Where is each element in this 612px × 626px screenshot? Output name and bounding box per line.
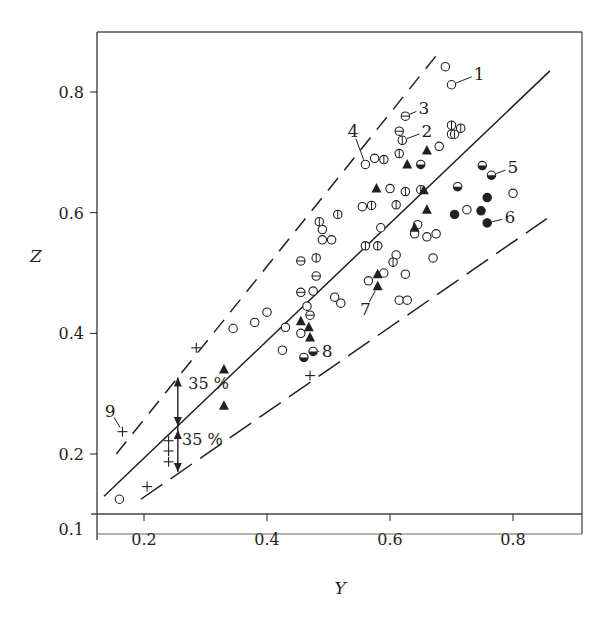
circle — [401, 270, 409, 278]
fit-lines — [104, 56, 550, 499]
y-tick-label: 0.6 — [59, 204, 84, 223]
y-tick-label: 0.1 — [59, 520, 84, 539]
circle-vbar-marker-icon — [447, 121, 455, 129]
band-percent-label: 35 % — [188, 374, 229, 393]
circle-vbar-marker-icon — [401, 187, 409, 195]
triangle-marker-icon — [373, 281, 383, 291]
circle — [477, 207, 485, 215]
y-tick-label: 0.2 — [59, 445, 84, 464]
circle-open-marker-icon — [423, 233, 431, 241]
circle-open-marker-icon — [358, 202, 366, 210]
leader-line — [356, 139, 364, 160]
triangle-marker-icon — [402, 159, 412, 169]
circle — [509, 189, 517, 197]
triangle-marker-icon — [422, 145, 432, 155]
plot-frame — [91, 32, 582, 540]
circle-open-marker-icon — [509, 189, 517, 197]
fit-line-dashed — [116, 56, 436, 454]
circle — [229, 324, 237, 332]
circle-vbar-marker-icon — [389, 258, 397, 266]
circle-open-marker-icon — [297, 329, 305, 337]
circle — [386, 184, 394, 192]
plus-marker-icon — [164, 446, 174, 456]
leader-line — [410, 111, 416, 114]
circle — [251, 318, 259, 326]
plus-marker-icon — [164, 457, 174, 467]
circle — [297, 329, 305, 337]
annotation-label-5: 5 — [508, 157, 519, 177]
circle-vbar-marker-icon — [367, 201, 375, 209]
triangle — [422, 145, 432, 155]
circle-vbar-marker-icon — [395, 149, 403, 157]
circle-open-marker-icon — [429, 254, 437, 262]
triangle-marker-icon — [219, 364, 229, 374]
triangle — [305, 332, 315, 342]
circle-open-marker-icon — [278, 346, 286, 354]
x-tick-label: 0.6 — [377, 530, 402, 549]
circle-open-marker-icon — [364, 277, 372, 285]
circle-hbar-marker-icon — [306, 311, 314, 319]
circle-open-marker-icon — [337, 299, 345, 307]
circle — [263, 308, 271, 316]
x-axis-title: Y — [334, 578, 347, 598]
annotation-label-1: 1 — [474, 64, 485, 84]
y-tick-label: 0.8 — [59, 83, 84, 102]
circle-open-marker-icon — [115, 495, 123, 503]
circle-hbar-marker-icon — [401, 112, 409, 120]
circle-open-marker-icon — [377, 224, 385, 232]
circle — [450, 210, 458, 218]
triangle — [296, 316, 306, 326]
circle — [441, 62, 449, 70]
circle — [303, 302, 311, 310]
circle-vbar-marker-icon — [374, 242, 382, 250]
x-tick-label: 0.4 — [254, 530, 279, 549]
circle-open-marker-icon — [435, 142, 443, 150]
circle-open-marker-icon — [401, 270, 409, 278]
circle-half-marker-icon — [300, 353, 308, 361]
circle-open-marker-icon — [318, 225, 326, 233]
triangle-marker-icon — [422, 204, 432, 214]
circle — [403, 296, 411, 304]
circle-open-marker-icon — [386, 184, 394, 192]
circle — [370, 154, 378, 162]
triangle-marker-icon — [219, 400, 229, 410]
scatter-chart: 35 %35 % 123456789 0.20.40.60.80.10.20.4… — [0, 0, 612, 626]
triangle — [371, 183, 381, 193]
circle-hbar-marker-icon — [312, 272, 320, 280]
circle — [309, 287, 317, 295]
circle — [432, 230, 440, 238]
triangle-marker-icon — [305, 332, 315, 342]
y-axis-title: Z — [29, 246, 43, 266]
circle — [423, 233, 431, 241]
circle — [447, 81, 455, 89]
circle — [429, 254, 437, 262]
circle — [278, 346, 286, 354]
circle-hbar-marker-icon — [297, 288, 305, 296]
circle-hbar-marker-icon — [395, 127, 403, 135]
annotation-label-9: 9 — [105, 401, 116, 421]
circle-filled-marker-icon — [477, 207, 485, 215]
annotation-label-3: 3 — [418, 98, 429, 118]
circle — [318, 236, 326, 244]
circle-open-marker-icon — [361, 160, 369, 168]
circle-vbar-marker-icon — [315, 218, 323, 226]
triangle — [373, 281, 383, 291]
arrowhead-up-icon — [174, 430, 182, 439]
circle-half-marker-icon — [453, 183, 461, 191]
annotation-label-4: 4 — [348, 121, 359, 141]
arrowhead-down-icon — [174, 463, 182, 472]
annotation-label-6: 6 — [505, 207, 516, 227]
triangle — [422, 204, 432, 214]
circle-open-marker-icon — [251, 318, 259, 326]
x-tick-label: 0.8 — [500, 530, 525, 549]
annotation-label-8: 8 — [322, 341, 333, 361]
circle-open-marker-icon — [318, 236, 326, 244]
circle-half-marker-icon — [487, 171, 495, 179]
leader-line — [496, 170, 505, 173]
x-tick-label: 0.2 — [131, 530, 156, 549]
circle-vbar-marker-icon — [380, 155, 388, 163]
arrowhead-down-icon — [174, 417, 182, 426]
annotations: 123456789 — [105, 64, 519, 427]
circle-hbar-marker-icon — [297, 257, 305, 265]
circle-open-marker-icon — [403, 296, 411, 304]
